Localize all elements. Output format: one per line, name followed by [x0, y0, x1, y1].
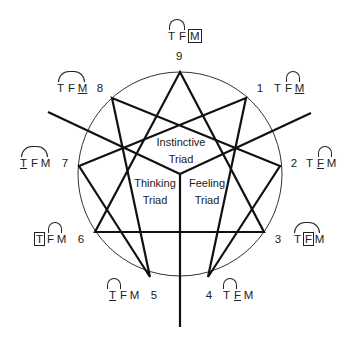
point-7-number: 7: [57, 157, 73, 170]
type-4-centers: 4 T F M: [201, 289, 254, 302]
arc-icon: [58, 71, 85, 82]
type-2-centers: 2 T F M: [286, 157, 337, 170]
letter-m: M: [56, 233, 67, 246]
triad-line: Feeling: [182, 175, 232, 192]
letter-m: M: [326, 157, 337, 170]
arc-icon: [107, 278, 121, 289]
type-5-centers: T F M 5: [107, 289, 162, 302]
point-3-number: 3: [270, 233, 286, 246]
type-7-centers: T F M 7: [18, 157, 73, 170]
point-5-number: 5: [146, 289, 162, 302]
letter-f: F: [118, 289, 129, 302]
point-4-number: 4: [201, 289, 217, 302]
arc-icon: [48, 222, 62, 233]
letter-f: F: [45, 233, 56, 246]
triad-line: Instinctive: [145, 134, 217, 151]
letter-t: T: [304, 157, 315, 170]
letter-t: T: [292, 233, 303, 246]
type-6-centers: T F M 6: [34, 233, 89, 246]
letter-t: T: [55, 82, 66, 95]
type-3-centers: 3 T F M: [270, 233, 325, 246]
letter-m: M: [243, 289, 254, 302]
point-9-number: 9: [176, 50, 182, 63]
triad-line: Triad: [130, 192, 180, 209]
point-2-number: 2: [286, 157, 302, 170]
point-1-number: 1: [252, 82, 268, 95]
point-8-number: 8: [92, 82, 108, 95]
letter-m-dominant: M: [77, 82, 88, 95]
arc-icon: [223, 278, 237, 289]
instinctive-triad-label: Instinctive Triad: [145, 134, 217, 168]
letter-f-dominant: F: [315, 157, 326, 170]
triad-line: Triad: [182, 192, 232, 209]
letter-m: M: [40, 157, 51, 170]
letter-t-dominant: T: [34, 233, 45, 246]
letter-f: F: [283, 82, 294, 95]
arc-icon: [169, 19, 185, 30]
letter-m-dominant: M: [294, 82, 305, 95]
letter-f-dominant: F: [303, 233, 314, 246]
type-1-centers: 1 T F M: [252, 82, 305, 95]
letter-m: M: [314, 233, 325, 246]
letter-f-dominant: F: [232, 289, 243, 302]
feeling-triad-label: Feeling Triad: [182, 175, 232, 209]
thinking-triad-label: Thinking Triad: [130, 175, 180, 209]
letter-f: F: [29, 157, 40, 170]
arc-icon: [21, 146, 48, 157]
letter-f: F: [177, 30, 188, 43]
letter-t: T: [221, 289, 232, 302]
letter-t: T: [272, 82, 283, 95]
letter-m-dominant: M: [188, 30, 199, 43]
letter-f: F: [66, 82, 77, 95]
letter-m: M: [129, 289, 140, 302]
type-9-centers: T F M: [166, 30, 199, 43]
triad-line: Thinking: [130, 175, 180, 192]
arc-icon: [286, 71, 300, 82]
letter-t-dominant: T: [107, 289, 118, 302]
letter-t: T: [166, 30, 177, 43]
type-8-centers: T F M 8: [55, 82, 108, 95]
arc-icon: [318, 146, 332, 157]
point-6-number: 6: [73, 233, 89, 246]
triad-line: Triad: [145, 151, 217, 168]
letter-t-dominant: T: [18, 157, 29, 170]
